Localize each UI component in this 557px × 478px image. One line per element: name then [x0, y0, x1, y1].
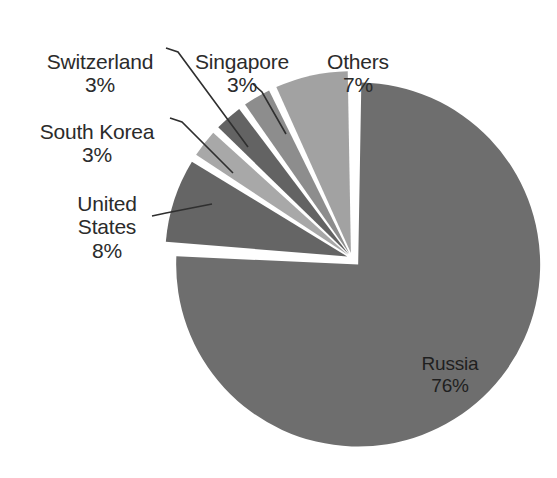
- slice-label-united-states-percent: 8%: [48, 239, 166, 263]
- slice-label-south-korea-name: South Korea: [40, 120, 155, 143]
- slice-label-south-korea-percent: 3%: [16, 143, 178, 167]
- slice-label-russia-name: Russia: [422, 353, 479, 374]
- pie-chart-figure: Switzerland 3% South Korea 3% United Sta…: [0, 0, 557, 478]
- slice-label-singapore-percent: 3%: [178, 73, 306, 97]
- slice-label-others-name: Others: [327, 50, 389, 73]
- slice-label-singapore-name: Singapore: [195, 50, 289, 73]
- slice-label-others: Others 7%: [310, 26, 406, 120]
- slice-label-switzerland-percent: 3%: [22, 73, 178, 97]
- slice-label-united-states-name: United States: [77, 192, 137, 239]
- slice-label-others-percent: 7%: [310, 73, 406, 97]
- slice-label-singapore: Singapore 3%: [178, 26, 306, 120]
- slice-label-switzerland-name: Switzerland: [47, 50, 153, 73]
- slice-label-united-states: United States 8%: [48, 168, 166, 286]
- slice-label-russia: Russia 76%: [398, 332, 502, 417]
- slice-label-russia-percent: 76%: [398, 375, 502, 396]
